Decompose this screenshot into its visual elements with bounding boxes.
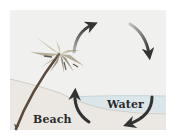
beach-label: Beach (33, 113, 72, 126)
diagram-canvas (0, 0, 171, 140)
water-label: Water (107, 98, 144, 111)
sea-breeze-diagram: Beach Water (0, 0, 171, 140)
